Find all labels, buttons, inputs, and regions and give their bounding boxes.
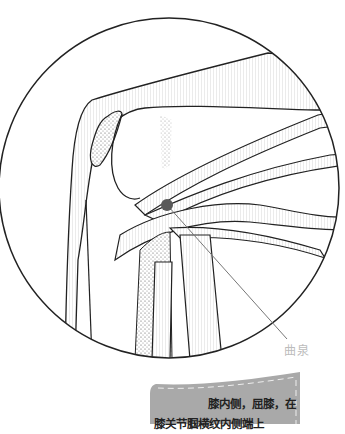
note-line-2: 膝关节腘横纹内侧端上 [154, 414, 302, 434]
acupoint-label: 曲泉 [284, 341, 310, 358]
note-line-1: 膝内侧，屈膝，在 [154, 394, 302, 414]
acupoint-marker [161, 199, 173, 211]
note-text: 膝内侧，屈膝，在 膝关节腘横纹内侧端上 [154, 394, 302, 434]
